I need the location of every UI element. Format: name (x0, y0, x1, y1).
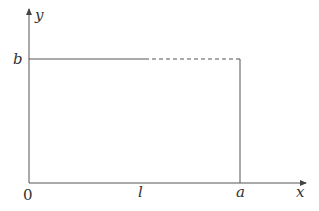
l-tick-label: l (138, 183, 143, 201)
a-tick-label: a (236, 183, 245, 201)
x-axis-label: x (296, 183, 305, 201)
y-axis-label: y (34, 6, 44, 24)
origin-label: 0 (23, 186, 33, 204)
b-tick-label: b (13, 50, 23, 68)
rectangle-domain-diagram: y b 0 l a x (0, 0, 319, 211)
